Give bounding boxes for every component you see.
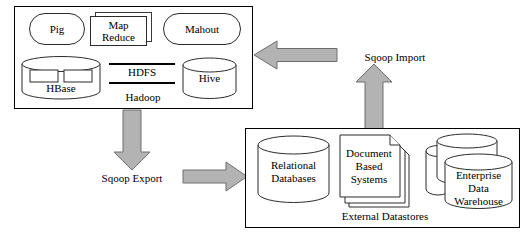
node-document-based-systems: Document Based Systems [338, 133, 416, 208]
node-mahout-label: Mahout [185, 23, 219, 35]
node-mahout: Mahout [163, 13, 241, 45]
hdfs-top-rule [109, 63, 175, 65]
node-enterprise-data-warehouse-label-line3: Warehouse [445, 196, 512, 208]
arrow-sqoop-export-vertical [113, 109, 151, 171]
node-hbase-label: HBase [21, 83, 101, 95]
node-mapreduce: Map Reduce [90, 16, 147, 46]
node-enterprise-data-warehouse: Enterprise Data Warehouse [424, 133, 514, 211]
node-pig-label: Pig [50, 23, 65, 35]
hadoop-group-label: Hadoop [98, 92, 188, 104]
node-hive-label: Hive [182, 73, 237, 85]
external-datastores-group-label: External Datastores [295, 211, 475, 223]
arrow-sqoop-import-vertical [355, 63, 393, 133]
arrow-right-shape [182, 160, 248, 193]
node-mapreduce-label-line1: Map [108, 19, 128, 31]
node-relational-databases-label-line1: Relational [257, 160, 330, 172]
node-relational-databases: Relational Databases [257, 135, 330, 203]
node-hbase: HBase [21, 56, 101, 99]
node-enterprise-data-warehouse-label-line1: Enterprise [445, 170, 512, 182]
label-sqoop-export: Sqoop Export [77, 173, 187, 185]
diagram-canvas: Pig Map Reduce Mahout HBase HDFS Hive Ha… [0, 0, 529, 244]
arrow-sqoop-import-horizontal [253, 39, 338, 71]
node-hive: Hive [182, 57, 237, 99]
node-document-based-systems-label-line2: Based [340, 161, 398, 173]
hdfs-bottom-rule [109, 82, 175, 84]
node-document-based-systems-label-line1: Document [340, 148, 398, 160]
node-pig: Pig [29, 13, 85, 45]
arrow-sqoop-export-horizontal [182, 160, 248, 193]
arrow-down-shape [113, 109, 151, 171]
node-mapreduce-label-line2: Reduce [102, 31, 135, 43]
label-sqoop-import: Sqoop Import [340, 52, 450, 64]
node-relational-databases-label-line2: Databases [257, 173, 330, 185]
node-enterprise-data-warehouse-label-line2: Data [445, 183, 512, 195]
node-document-based-systems-label-line3: Systems [340, 174, 398, 186]
node-hdfs-label: HDFS [109, 67, 175, 79]
arrow-left-shape [253, 39, 338, 71]
arrow-up-shape [355, 63, 393, 133]
